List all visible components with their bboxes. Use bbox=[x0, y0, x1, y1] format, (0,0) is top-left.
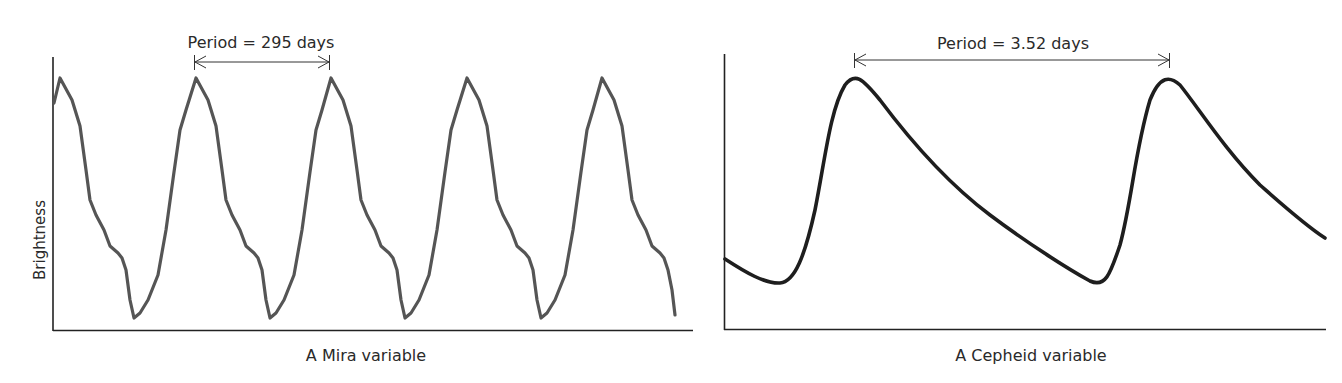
mira-period-label: Period = 295 days bbox=[188, 33, 335, 52]
cepheid-x-axis-label: A Cepheid variable bbox=[955, 346, 1106, 365]
cepheid-chart: Period = 3.52 days A Cepheid variable bbox=[700, 0, 1342, 383]
mira-x-axis-label: A Mira variable bbox=[306, 346, 426, 365]
mira-chart-svg: Period = 295 days Brightness A Mira vari… bbox=[0, 0, 700, 383]
mira-light-curve bbox=[54, 78, 675, 318]
cepheid-chart-svg: Period = 3.52 days A Cepheid variable bbox=[700, 0, 1342, 383]
cepheid-period-annotation bbox=[855, 53, 1170, 68]
cepheid-light-curve bbox=[725, 78, 1325, 283]
mira-period-annotation bbox=[195, 55, 330, 70]
mira-chart: Period = 295 days Brightness A Mira vari… bbox=[0, 0, 700, 383]
mira-y-axis-label: Brightness bbox=[31, 200, 49, 280]
cepheid-period-label: Period = 3.52 days bbox=[937, 34, 1089, 53]
